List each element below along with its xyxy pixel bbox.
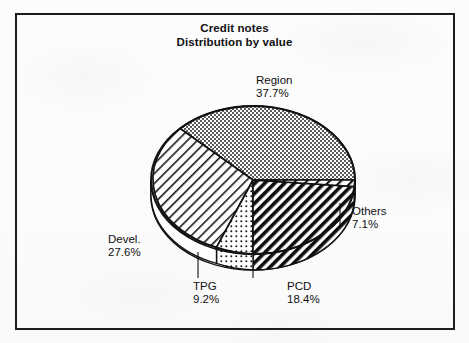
pie-top-face bbox=[151, 106, 355, 254]
pie-label-tpg-name: TPG bbox=[193, 280, 219, 293]
pie-label-others: Others 7.1% bbox=[352, 205, 387, 231]
chart-title: Credit notes Distribution by value bbox=[0, 22, 469, 49]
chart-title-line-1: Credit notes bbox=[0, 22, 469, 36]
pie-label-devel: Devel. 27.6% bbox=[108, 233, 141, 259]
pie-chart bbox=[0, 0, 469, 343]
pie-label-pcd-value: 18.4% bbox=[287, 293, 320, 306]
pie-label-region: Region 37.7% bbox=[256, 74, 292, 100]
pie-label-tpg-value: 9.2% bbox=[193, 293, 219, 306]
pie-chart-svg bbox=[0, 0, 469, 343]
pie-label-others-name: Others bbox=[352, 205, 387, 218]
pie-label-region-value: 37.7% bbox=[256, 87, 292, 100]
pie-label-devel-value: 27.6% bbox=[108, 246, 141, 259]
pie-label-devel-name: Devel. bbox=[108, 233, 141, 246]
pie-slice-pcd bbox=[253, 180, 354, 254]
pie-label-region-name: Region bbox=[256, 74, 292, 87]
chart-title-line-2: Distribution by value bbox=[0, 36, 469, 50]
pie-label-tpg: TPG 9.2% bbox=[193, 280, 219, 306]
pie-label-pcd-name: PCD bbox=[287, 280, 320, 293]
pie-label-others-value: 7.1% bbox=[352, 218, 387, 231]
pie-label-pcd: PCD 18.4% bbox=[287, 280, 320, 306]
